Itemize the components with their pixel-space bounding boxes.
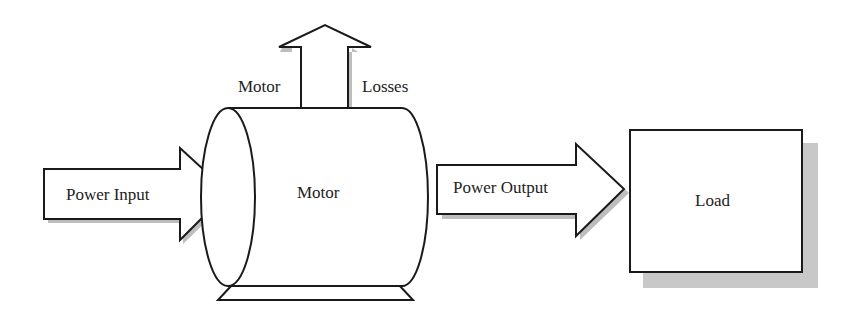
motor-losses-label-right: Losses bbox=[362, 77, 408, 96]
motor-power-flow-diagram: Power Input Motor Losses Motor Power Out… bbox=[0, 0, 855, 311]
load-box: Load bbox=[630, 130, 818, 288]
motor-base bbox=[218, 285, 413, 300]
power-output-arrow: Power Output bbox=[437, 144, 629, 240]
motor-cylinder: Motor bbox=[201, 108, 428, 300]
power-output-label: Power Output bbox=[453, 178, 548, 197]
power-input-label: Power Input bbox=[66, 185, 150, 204]
motor-losses-label-left: Motor bbox=[238, 77, 281, 96]
motor-label: Motor bbox=[297, 183, 340, 202]
motor-losses-arrow: Motor Losses bbox=[238, 25, 408, 108]
load-label: Load bbox=[695, 191, 730, 210]
